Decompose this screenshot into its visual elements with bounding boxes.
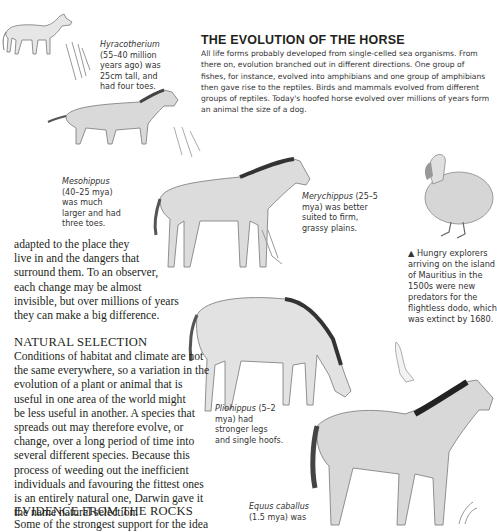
natural-selection-heading: NATURAL SELECTION [14, 335, 147, 350]
species-name: Mesohippus [62, 177, 110, 186]
hyracotherium-caption: Hyracotherium (55–40 million years ago) … [100, 40, 175, 93]
article-intro: All life forms probably developed from s… [201, 48, 491, 116]
species-name: Hyracotherium [100, 40, 160, 49]
merychippus-foot-sketch [258, 228, 288, 268]
evidence-heading: EVIDENCE FROM THE ROCKS [14, 504, 193, 519]
mesohippus-illustration [46, 88, 186, 148]
equus-caption: Equus caballus (1.5 mya) was [249, 502, 309, 523]
mesohippus-caption: Mesohippus (40–25 mya) was much larger a… [62, 177, 124, 230]
article-title: THE EVOLUTION OF THE HORSE [201, 33, 405, 47]
dodo-illustration [415, 150, 497, 240]
natural-selection-paragraph: Conditions of habitat and climate are no… [14, 350, 244, 520]
species-name: Merychippus [302, 192, 353, 201]
body-paragraph-1: adapted to the place they live in and th… [14, 238, 214, 323]
merychippus-caption: Merychippus (25–5 mya) was better suited… [302, 192, 387, 234]
evidence-partial-line: Some of the strongest support for the id… [14, 518, 208, 532]
dodo-caption: ▲ Hungry explorers arriving on the islan… [408, 248, 497, 325]
hyracotherium-toes-sketch [62, 40, 92, 92]
equus-foot-sketch [455, 500, 481, 525]
species-name: Equus caballus [249, 502, 309, 511]
